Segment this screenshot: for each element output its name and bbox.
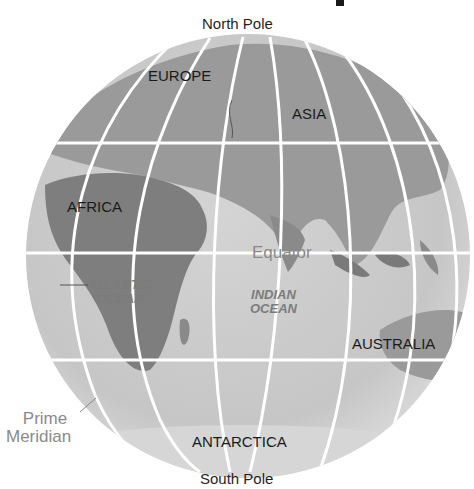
equator-label: Equator: [252, 244, 312, 261]
indian-line1: INDIAN: [250, 288, 297, 302]
indian-line2: OCEAN: [250, 302, 297, 316]
prime-meridian-line2: Meridian: [6, 428, 71, 446]
europe-label: EUROPE: [148, 68, 211, 83]
globe-diagram: North Pole South Pole EUROPE ASIA AFRICA…: [0, 0, 474, 489]
atlantic-line2: OCEAN: [88, 292, 152, 306]
antarctica-label: ANTARCTICA: [192, 434, 287, 449]
australia-label: AUSTRALIA: [352, 336, 435, 351]
atlantic-ocean-label: ATLANTIC OCEAN: [88, 278, 152, 307]
prime-meridian-line1: Prime: [6, 410, 71, 428]
north-pole-label: North Pole: [202, 16, 273, 31]
atlantic-line1: ATLANTIC: [88, 278, 152, 292]
asia-label: ASIA: [292, 106, 326, 121]
indian-ocean-label: INDIAN OCEAN: [250, 288, 297, 317]
south-pole-label: South Pole: [200, 471, 273, 486]
prime-meridian-label: Prime Meridian: [6, 410, 71, 446]
africa-label: AFRICA: [67, 199, 122, 214]
